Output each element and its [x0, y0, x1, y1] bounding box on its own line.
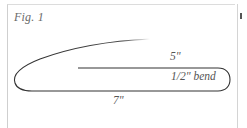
upper-arm-curve	[40, 39, 150, 59]
dimension-5-inch: 5"	[170, 50, 181, 62]
wire-bend-diagram	[0, 0, 247, 128]
dimension-7-inch: 7"	[113, 94, 124, 106]
dimension-half-inch-bend: 1/2" bend	[171, 70, 216, 82]
